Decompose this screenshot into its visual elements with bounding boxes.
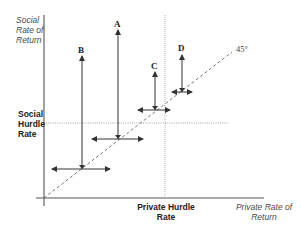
x-axis-label-line: Return <box>228 212 300 222</box>
social-hurdle-label-line: Rate <box>18 129 48 139</box>
point-d-label: D <box>178 43 185 53</box>
y-axis-label: Social Rate of Return <box>16 15 46 45</box>
point-d-arrows <box>172 55 192 92</box>
private-hurdle-label-line: Rate <box>130 212 202 222</box>
diagonal-45-label: 45° <box>236 44 248 54</box>
point-b-label: B <box>78 45 84 55</box>
private-hurdle-label: Private Hurdle Rate <box>130 202 202 222</box>
diagonal-45-line <box>44 52 232 198</box>
y-axis-label-line: Social <box>16 15 46 25</box>
private-hurdle-label-line: Private Hurdle <box>130 202 202 212</box>
social-hurdle-label-line: Hurdle <box>18 119 48 129</box>
point-c-label: C <box>151 61 158 71</box>
point-b-arrows <box>52 56 110 169</box>
x-axis-label: Private Rate of Return <box>228 202 300 222</box>
point-a-label: A <box>114 19 121 29</box>
y-axis-label-line: Rate of <box>16 25 46 35</box>
social-hurdle-label: Social Hurdle Rate <box>18 109 48 139</box>
y-axis-label-line: Return <box>16 35 46 45</box>
social-hurdle-label-line: Social <box>18 109 48 119</box>
diagram-canvas: Social Rate of Return Social Hurdle Rate… <box>0 0 301 230</box>
x-axis-label-line: Private Rate of <box>228 202 300 212</box>
